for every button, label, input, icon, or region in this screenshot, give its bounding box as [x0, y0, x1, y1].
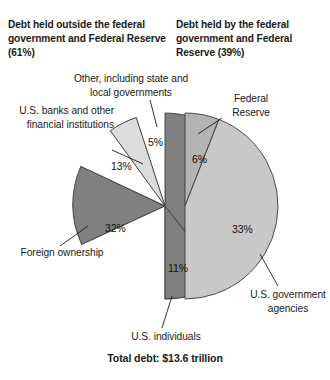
pct-us-banks: 13%: [111, 161, 132, 172]
pct-other-state-local: 5%: [148, 137, 163, 148]
pct-us-government-agencies: 33%: [232, 224, 253, 235]
leader-us-government-agencies: [260, 254, 278, 286]
pct-federal-reserve: 6%: [192, 154, 207, 165]
pct-us-individuals: 11%: [168, 263, 188, 274]
pie-chart-figure: Debt held outside the federal government…: [0, 0, 330, 380]
pct-foreign-ownership: 32%: [105, 223, 126, 234]
leader-other-state-local: [150, 100, 157, 127]
leader-us-individuals: [162, 296, 172, 328]
pie-graphic: 5% 13% 32% 11% 6% 33%: [0, 0, 330, 380]
total-debt-caption: Total debt: $13.6 trillion: [0, 352, 330, 364]
